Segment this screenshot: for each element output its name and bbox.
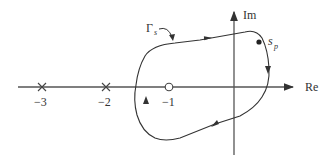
point-sp-label-sub: p xyxy=(273,42,278,51)
point-sp-label: s xyxy=(268,34,273,48)
contour-arrow-bottom xyxy=(211,120,219,127)
contour-label-sub: s xyxy=(154,28,157,37)
tick-label-neg1: −1 xyxy=(162,95,175,109)
contour-label-pointer-arrow xyxy=(169,34,175,41)
contour-label: Γ xyxy=(146,21,153,35)
s-plane-diagram: Re Im Γ s s p −3 −2 −1 xyxy=(0,0,330,161)
tick-label-neg2: −2 xyxy=(98,95,111,109)
contour-arrow-top xyxy=(204,36,212,40)
contour-gamma-s xyxy=(135,31,269,140)
point-sp xyxy=(256,39,261,44)
real-axis-label: Re xyxy=(305,80,318,94)
imag-axis-label: Im xyxy=(243,8,257,22)
zero-marker-neg1 xyxy=(165,83,173,91)
tick-label-neg3: −3 xyxy=(34,95,47,109)
contour-arrow-left xyxy=(143,96,149,104)
contour-arrow-right xyxy=(265,66,271,74)
